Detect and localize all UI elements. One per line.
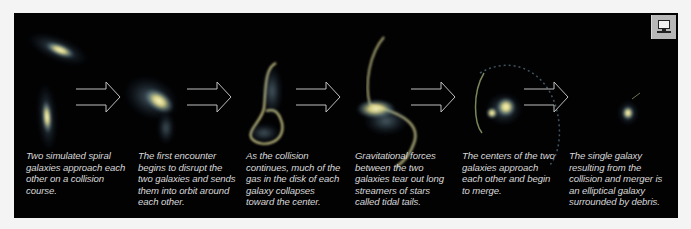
caption-stage-5: The centers of the two galaxies approach… bbox=[462, 150, 555, 196]
caption-stage-1: Two simulated spiral galaxies approach e… bbox=[26, 150, 125, 196]
computer-monitor-button[interactable] bbox=[651, 15, 676, 39]
caption-stage-2: The first encounter begins to disrupt th… bbox=[138, 150, 236, 208]
caption-stage-6: The single galaxy resulting from the col… bbox=[569, 150, 662, 208]
caption-stage-4: Gravitational forces between the two gal… bbox=[355, 150, 444, 208]
caption-stage-3: As the collision continues, much of the … bbox=[246, 150, 340, 208]
computer-monitor-icon bbox=[656, 19, 672, 35]
galaxy-collision-diagram: Two simulated spiral galaxies approach e… bbox=[14, 13, 678, 218]
captions: Two simulated spiral galaxies approach e… bbox=[14, 13, 678, 218]
